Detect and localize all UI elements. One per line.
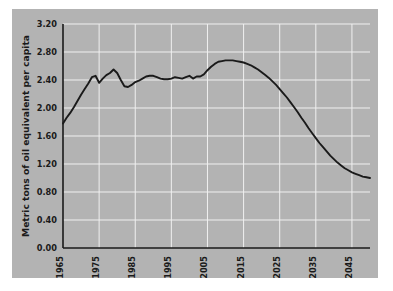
x-axis-tick-labels: 196519751985199520052015202520352045 bbox=[55, 256, 354, 278]
y-tick-label: 3.20 bbox=[37, 19, 58, 29]
y-tick-label: 0.40 bbox=[37, 215, 58, 225]
y-tick-label: 1.60 bbox=[37, 131, 58, 141]
chart-panel: 0.000.400.801.201.602.002.402.803.20 196… bbox=[12, 9, 378, 278]
x-tick-label: 2035 bbox=[308, 256, 318, 278]
x-tick-label: 1965 bbox=[55, 256, 65, 278]
x-tick-label: 2025 bbox=[272, 256, 282, 278]
series-line bbox=[63, 60, 370, 178]
y-tick-label: 2.40 bbox=[37, 75, 58, 85]
x-tick-label: 2015 bbox=[236, 256, 246, 278]
x-tick-label: 1975 bbox=[91, 256, 101, 278]
grid-lines bbox=[63, 24, 370, 248]
y-tick-label: 1.20 bbox=[37, 159, 58, 169]
y-axis-title: Metric tons of oil equivalent per capita bbox=[20, 35, 31, 237]
x-tick-label: 1995 bbox=[163, 256, 173, 278]
y-tick-label: 2.00 bbox=[37, 103, 58, 113]
y-tick-label: 2.80 bbox=[37, 47, 58, 57]
data-series-line bbox=[63, 60, 370, 178]
chart-figure: 0.000.400.801.201.602.002.402.803.20 196… bbox=[0, 0, 393, 291]
x-tick-label: 2045 bbox=[344, 256, 354, 278]
y-axis-tick-labels: 0.000.400.801.201.602.002.402.803.20 bbox=[37, 19, 58, 253]
x-tick-label: 1985 bbox=[127, 256, 137, 278]
y-tick-label: 0.80 bbox=[37, 187, 58, 197]
line-chart-plot: 0.000.400.801.201.602.002.402.803.20 196… bbox=[12, 9, 378, 278]
x-tick-label: 2005 bbox=[199, 256, 209, 278]
y-tick-label: 0.00 bbox=[37, 243, 58, 253]
